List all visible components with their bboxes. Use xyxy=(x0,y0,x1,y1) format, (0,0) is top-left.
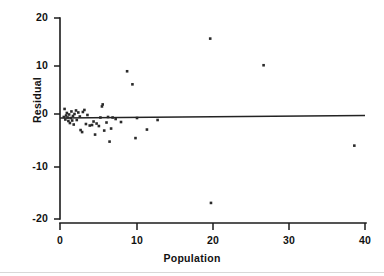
data-point xyxy=(70,110,73,113)
y-axis-title: Residual xyxy=(31,65,43,135)
data-point xyxy=(64,118,67,121)
data-point xyxy=(85,123,88,126)
y-axis xyxy=(54,18,60,219)
y-tick-label-neg20: -20 xyxy=(14,212,48,224)
data-point xyxy=(107,116,110,119)
residual-scatter-plot-figure: 20 10 0 -10 -20 0 10 20 30 40 Residual P… xyxy=(0,0,384,276)
data-point xyxy=(136,117,139,120)
data-point xyxy=(131,83,134,86)
data-point xyxy=(79,115,82,118)
data-point xyxy=(105,121,108,124)
y-tick-label-20: 20 xyxy=(18,11,48,23)
data-point xyxy=(75,119,78,122)
data-point xyxy=(63,108,66,111)
x-axis-title: Population xyxy=(0,252,384,264)
data-point xyxy=(98,125,101,128)
data-point xyxy=(120,121,123,124)
data-point xyxy=(210,202,213,205)
data-point xyxy=(146,128,149,131)
data-point xyxy=(209,37,212,40)
data-point xyxy=(114,118,117,121)
data-point xyxy=(91,124,94,127)
data-point xyxy=(353,144,356,147)
data-point xyxy=(72,123,75,126)
data-point xyxy=(101,103,104,106)
x-tick-label-0: 0 xyxy=(45,234,75,246)
data-point xyxy=(69,122,72,125)
data-point xyxy=(88,124,91,127)
x-tick-label-30: 30 xyxy=(274,234,304,246)
data-point xyxy=(71,119,74,122)
data-point xyxy=(75,109,78,112)
data-point xyxy=(110,127,113,130)
data-point xyxy=(94,133,97,136)
data-point xyxy=(95,122,98,125)
data-point xyxy=(92,120,95,123)
x-axis xyxy=(60,223,366,230)
data-point xyxy=(77,111,80,114)
x-tick-label-10: 10 xyxy=(122,234,152,246)
data-point xyxy=(69,117,72,120)
reference-line-group xyxy=(60,115,365,118)
data-point xyxy=(103,129,106,132)
zero-residual-fit-line xyxy=(60,115,365,118)
page-bottom-rule xyxy=(0,272,384,273)
data-point xyxy=(73,113,76,116)
x-tick-label-40: 40 xyxy=(350,234,380,246)
data-point xyxy=(108,140,111,143)
data-point xyxy=(63,116,66,119)
data-point xyxy=(68,113,71,116)
data-point xyxy=(134,137,137,140)
data-point xyxy=(126,70,129,73)
y-tick-label-neg10: -10 xyxy=(14,160,48,172)
data-point xyxy=(66,112,69,115)
data-points-group xyxy=(63,37,356,204)
data-point xyxy=(86,114,89,117)
data-point xyxy=(111,116,114,119)
data-point xyxy=(66,116,69,119)
data-point xyxy=(81,131,84,134)
data-point xyxy=(99,116,102,119)
data-point xyxy=(156,119,159,122)
data-point xyxy=(262,64,265,67)
data-point xyxy=(83,109,86,112)
x-tick-label-20: 20 xyxy=(198,234,228,246)
